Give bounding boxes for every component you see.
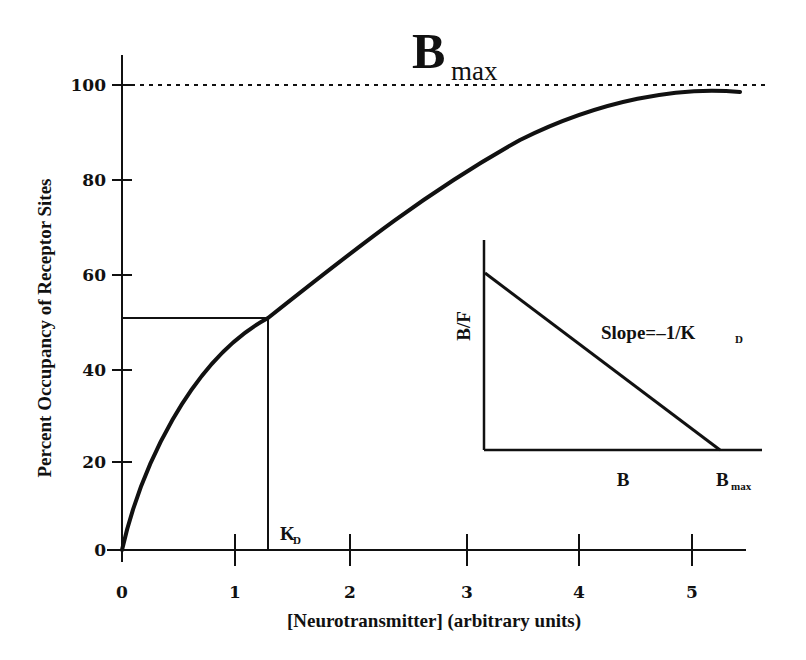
saturation-curve	[122, 91, 740, 550]
x-tick-label: 4	[573, 582, 585, 602]
kd-label: K D	[280, 523, 301, 546]
inset-scatchard-line	[485, 273, 720, 450]
y-tick-label: 20	[82, 452, 106, 472]
x-axis-label: [Neurotransmitter] (arbitrary units)	[287, 610, 581, 632]
title-main: B	[412, 23, 445, 79]
y-tick-label: 100	[71, 75, 107, 95]
y-tick-label: 40	[82, 360, 106, 380]
inset-slope-label-main: Slope=–1/K	[601, 322, 695, 343]
x-tick-label: 0	[116, 582, 128, 602]
inset-slope-label-sub: D	[735, 333, 743, 345]
x-tick-label: 2	[344, 582, 356, 602]
inset-bmax-label-main: B	[716, 469, 729, 490]
y-tick-label: 80	[82, 170, 106, 190]
y-tick-label: 60	[82, 265, 106, 285]
x-axis: 0 1 2 3 4 5 [Neurotransmitter] (arbitrar…	[107, 534, 746, 632]
y-axis-label: Percent Occupancy of Receptor Sites	[34, 179, 55, 478]
inset-x-label: B	[617, 469, 630, 490]
x-tick-label: 5	[686, 582, 698, 602]
scatchard-inset: B/F B B max Slope=–1/K D	[453, 240, 762, 492]
y-axis: 0 20 40 60 80 100 Percent Occupancy of R…	[34, 55, 132, 562]
inset-bmax-label-sub: max	[731, 480, 752, 492]
inset-y-label: B/F	[453, 311, 474, 341]
chart-title: B max	[412, 23, 498, 86]
x-tick-label: 1	[229, 582, 241, 602]
saturation-binding-chart: B max 0 20 40 60 80 100 Percent Occupanc…	[0, 0, 806, 660]
y-tick-label: 0	[94, 540, 106, 560]
kd-label-sub: D	[293, 534, 301, 546]
title-sub: max	[451, 56, 498, 86]
kd-guide-lines	[122, 318, 268, 550]
x-tick-label: 3	[461, 582, 473, 602]
